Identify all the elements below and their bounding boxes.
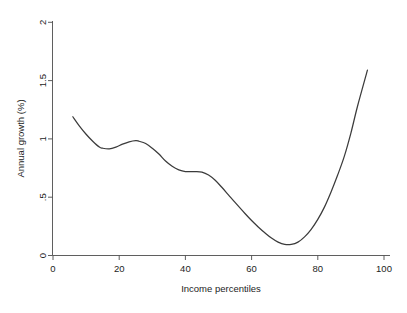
- x-tick-marks: [53, 256, 384, 261]
- y-tick-label-1: 1: [37, 136, 48, 141]
- y-tick-label-2: 2: [37, 20, 48, 25]
- line-chart-svg: 2 1.5 1 .5 0 0 20 40 60 80 100 Annual gr…: [0, 0, 407, 313]
- chart-figure: 2 1.5 1 .5 0 0 20 40 60 80 100 Annual gr…: [0, 0, 407, 313]
- y-tick-marks: [48, 22, 53, 255]
- y-axis-title: Annual growth (%): [15, 99, 26, 177]
- x-tick-label-60: 60: [246, 263, 257, 274]
- x-tick-label-80: 80: [313, 263, 324, 274]
- x-tick-label-100: 100: [376, 263, 392, 274]
- x-tick-label-20: 20: [114, 263, 125, 274]
- y-tick-label-0: 0: [37, 253, 48, 258]
- data-series-line: [73, 70, 368, 245]
- y-tick-labels: 2 1.5 1 .5 0: [37, 20, 48, 258]
- x-tick-label-0: 0: [50, 263, 55, 274]
- x-axis-title: Income percentiles: [181, 283, 261, 294]
- x-tick-label-40: 40: [180, 263, 191, 274]
- y-tick-label-1-5: 1.5: [37, 74, 48, 87]
- y-tick-label-0-5: .5: [37, 193, 48, 201]
- x-tick-labels: 0 20 40 60 80 100: [50, 263, 392, 274]
